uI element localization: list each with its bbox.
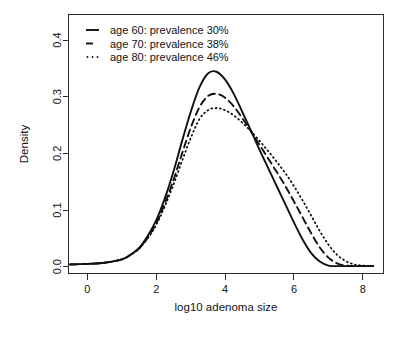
- density-plot-canvas: 024680.00.10.20.30.4log10 adenoma sizeDe…: [0, 0, 397, 341]
- y-tick-label: 0.3: [52, 89, 64, 104]
- legend-line-sample-dotted: [87, 56, 89, 58]
- legend-line-sample-dotted: [97, 56, 99, 58]
- x-tick-label: 4: [222, 283, 228, 295]
- density-curve-solid: [70, 71, 373, 266]
- legend-line-sample-dotted: [92, 56, 94, 58]
- y-tick-label: 0.4: [52, 32, 64, 47]
- density-curve-dashed: [70, 94, 373, 266]
- y-axis-title: Density: [18, 125, 30, 164]
- x-tick-label: 6: [291, 283, 297, 295]
- density-curve-dotted: [70, 108, 373, 266]
- x-tick-label: 0: [84, 283, 90, 295]
- x-tick-label: 2: [153, 283, 159, 295]
- y-tick-label: 0.0: [52, 259, 64, 274]
- y-tick-label: 0.2: [52, 146, 64, 161]
- y-tick-label: 0.1: [52, 202, 64, 217]
- legend-entry-label: age 60: prevalence 30%: [110, 24, 229, 36]
- x-axis-title: log10 adenoma size: [175, 301, 278, 313]
- legend-entry-label: age 70: prevalence 38%: [110, 38, 229, 50]
- density-plot-figure: 024680.00.10.20.30.4log10 adenoma sizeDe…: [0, 0, 397, 341]
- legend-entry-label: age 80: prevalence 46%: [110, 51, 229, 63]
- x-tick-label: 8: [360, 283, 366, 295]
